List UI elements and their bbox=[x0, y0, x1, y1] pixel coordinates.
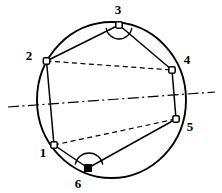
vertex-marker-2 bbox=[43, 58, 49, 64]
vertex-marker-3 bbox=[116, 22, 122, 28]
chord-1-2 bbox=[47, 61, 55, 145]
vertex-markers-group bbox=[43, 22, 179, 172]
dashed-chord-2-4 bbox=[47, 61, 173, 70]
axis-of-symmetry bbox=[8, 92, 215, 107]
figure-root: 123456 bbox=[0, 0, 222, 193]
hexagon-circle-diagram: 123456 bbox=[0, 0, 222, 193]
vertex-label-3: 3 bbox=[115, 2, 122, 17]
vertex-label-5: 5 bbox=[187, 119, 194, 134]
vertex-label-2: 2 bbox=[26, 48, 33, 63]
chord-3-4 bbox=[119, 25, 172, 70]
angle-arcs-group bbox=[75, 28, 132, 165]
vertex-marker-4 bbox=[169, 67, 175, 73]
vertex-label-6: 6 bbox=[75, 176, 82, 191]
dashed-chords-group bbox=[47, 61, 177, 145]
dashed-chord-1-5 bbox=[54, 119, 176, 145]
vertex-marker-6 bbox=[85, 165, 92, 172]
chord-2-3 bbox=[47, 25, 120, 61]
vertex-marker-1 bbox=[51, 142, 57, 148]
vertex-label-4: 4 bbox=[184, 52, 191, 67]
axis-group bbox=[8, 92, 215, 107]
vertex-marker-5 bbox=[173, 116, 179, 122]
vertex-label-1: 1 bbox=[40, 145, 47, 160]
